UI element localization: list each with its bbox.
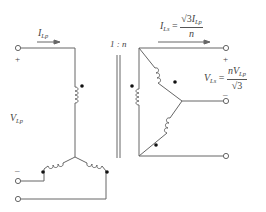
secondary-terminal-top [223, 45, 228, 50]
polarity-dot-secondary-b [173, 80, 177, 84]
primary-minus-sign: – [15, 166, 20, 175]
polarity-dot-primary-c [105, 170, 109, 174]
primary-terminal-mid [15, 178, 20, 183]
primary-coil-a [75, 87, 78, 157]
primary-voltage-label: VLp [10, 113, 23, 125]
secondary-plus-sign: + [223, 55, 228, 64]
secondary-voltage-label: VLs = nVLp √3 [204, 66, 247, 91]
primary-top-wire [21, 48, 75, 87]
primary-terminal-bottom [15, 196, 20, 201]
polarity-dot-secondary-c [154, 143, 158, 147]
secondary-coil-left [136, 89, 139, 156]
secondary-current-label: ILs = √3ILp n [160, 14, 203, 39]
secondary-terminal-bottom [223, 153, 228, 158]
primary-current-label: ILp [38, 28, 48, 40]
polarity-dot-primary-a [80, 84, 84, 88]
turns-ratio-label: 1 : n [110, 40, 127, 49]
primary-terminal-top [15, 45, 20, 50]
primary-coil-b [21, 157, 75, 181]
polarity-dot-primary-b [41, 170, 45, 174]
secondary-minus-sign: – [223, 90, 228, 99]
secondary-diag-lower [139, 101, 224, 156]
polarity-dot-secondary-a [130, 84, 134, 88]
primary-plus-sign: + [15, 55, 20, 64]
secondary-terminal-mid [223, 98, 228, 103]
